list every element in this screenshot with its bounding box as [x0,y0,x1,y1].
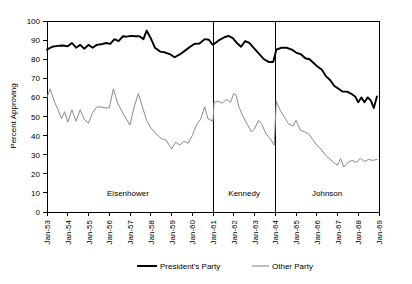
x-tick-label: Jan-54 [64,219,73,244]
legend-item-presidents-party: President's Party [160,262,220,271]
y-axis-title: Percent Approving [9,83,18,148]
y-tick-label: 100 [27,17,41,26]
x-tick-label: Jan-56 [105,219,114,244]
x-tick-label: Jan-64 [271,219,280,244]
y-tick-label: 60 [31,93,40,102]
x-tick-label: Jan-55 [85,219,94,244]
era-label-kennedy: Kennedy [228,189,260,198]
y-tick-label: 90 [31,36,40,45]
x-tick-label: Jan-65 [292,219,301,244]
x-tick-label: Jan-53 [43,219,52,244]
y-tick-label: 70 [31,74,40,83]
era-label-eisenhower: Eisenhower [107,189,149,198]
x-tick-label: Jan-60 [188,219,197,244]
y-tick-label: 10 [31,189,40,198]
y-tick-label: 50 [31,113,40,122]
era-label-johnson: Johnson [312,189,342,198]
x-tick-label: Jan-57 [126,219,135,244]
x-tick-label: Jan-66 [313,219,322,244]
y-tick-label: 80 [31,55,40,64]
y-tick-label: 0 [36,208,41,217]
x-tick-label: Jan-69 [375,219,384,244]
approval-rating-chart: 0102030405060708090100 Jan-53Jan-54Jan-5… [0,0,412,284]
x-tick-label: Jan-62 [230,219,239,244]
x-tick-label: Jan-61 [209,219,218,244]
chart-background [0,0,412,284]
y-tick-label: 20 [31,170,40,179]
x-tick-label: Jan-63 [251,219,260,244]
x-tick-label: Jan-67 [334,219,343,244]
x-tick-label: Jan-59 [168,219,177,244]
legend-item-other-party: Other Party [272,262,313,271]
x-tick-label: Jan-68 [354,219,363,244]
x-tick-label: Jan-58 [147,219,156,244]
y-tick-label: 30 [31,151,40,160]
y-tick-label: 40 [31,132,40,141]
